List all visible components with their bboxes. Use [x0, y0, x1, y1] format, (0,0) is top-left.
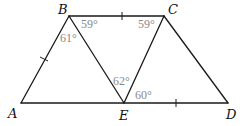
angle-label-b-upper: 59° [81, 17, 98, 31]
vertex-label-c: C [168, 2, 178, 17]
angle-label-e-upper: 62° [113, 74, 130, 88]
vertex-label-b: B [57, 2, 68, 17]
segment-cd [164, 16, 228, 103]
vertex-label-d: D [225, 107, 237, 122]
diagram-svg: B C A E D 59° 61° 59° 62° 60° [0, 0, 245, 126]
vertex-label-a: A [7, 106, 17, 121]
angle-label-e-right: 60° [135, 88, 152, 102]
vertex-label-e: E [118, 108, 129, 123]
angle-label-c: 59° [138, 17, 155, 31]
geometry-diagram: B C A E D 59° 61° 59° 62° 60° [0, 0, 245, 126]
angle-label-b-lower: 61° [60, 31, 77, 45]
